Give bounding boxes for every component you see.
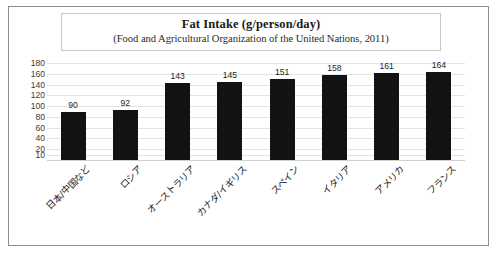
chart-subtitle: (Food and Agricultural Organization of t… — [66, 32, 436, 46]
x-axis-category-label: アメリカ — [371, 162, 406, 197]
bar — [270, 79, 295, 160]
y-axis-tick: 10 — [35, 150, 45, 160]
bar-slot: 164 — [424, 63, 454, 160]
y-axis-tick: 80 — [35, 112, 45, 122]
y-axis-tick: 160 — [31, 69, 45, 79]
bar — [322, 75, 347, 160]
bar-series: 9092143145151158161164 — [47, 63, 465, 160]
bar — [426, 72, 451, 160]
bar — [374, 73, 399, 160]
bar-slot: 145 — [215, 63, 245, 160]
y-axis-tick-labels: 1801601401201008060402010 — [23, 63, 45, 160]
y-axis-tick: 140 — [31, 80, 45, 90]
plot-area: 9092143145151158161164 — [47, 63, 465, 160]
x-axis-category-labels: 日本/中国などロシアオーストラリアカナダ/イギリススペインイタリアアメリカフラン… — [47, 160, 465, 222]
bar-value-label: 143 — [170, 71, 184, 81]
bar-slot: 161 — [372, 63, 402, 160]
bar — [217, 82, 242, 160]
bar-value-label: 158 — [327, 63, 341, 73]
bar-value-label: 151 — [275, 67, 289, 77]
bar — [61, 112, 86, 161]
bar-value-label: 164 — [432, 60, 446, 70]
chart-title-box: Fat Intake (g/person/day) (Food and Agri… — [61, 13, 441, 51]
x-axis-category-label: カナダ/イギリス — [193, 162, 250, 219]
chart-frame: Fat Intake (g/person/day) (Food and Agri… — [8, 6, 489, 246]
chart-title: Fat Intake (g/person/day) — [66, 17, 436, 32]
bar-slot: 90 — [58, 63, 88, 160]
bar-value-label: 145 — [223, 70, 237, 80]
bar-value-label: 92 — [121, 98, 131, 108]
x-axis-category-label: フランス — [423, 162, 458, 197]
bar — [113, 110, 138, 160]
bar-value-label: 161 — [379, 61, 393, 71]
bar-slot: 92 — [110, 63, 140, 160]
bar-value-label: 90 — [68, 100, 78, 110]
bar-slot: 143 — [163, 63, 193, 160]
x-axis-category-label: 日本/中国など — [43, 162, 93, 212]
x-axis-category-label: ロシア — [116, 162, 145, 191]
y-axis-tick: 180 — [31, 58, 45, 68]
y-axis-tick: 60 — [35, 123, 45, 133]
x-axis-category-label: オーストラリア — [143, 162, 197, 216]
x-axis-category-label: イタリア — [319, 162, 354, 197]
y-axis-tick: 100 — [31, 101, 45, 111]
x-axis-category-label: スペイン — [267, 162, 302, 197]
y-axis-tick: 120 — [31, 90, 45, 100]
bar — [165, 83, 190, 160]
bar-slot: 158 — [319, 63, 349, 160]
y-axis-tick: 40 — [35, 133, 45, 143]
bar-slot: 151 — [267, 63, 297, 160]
